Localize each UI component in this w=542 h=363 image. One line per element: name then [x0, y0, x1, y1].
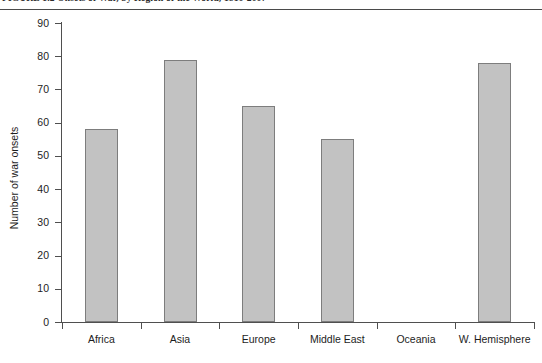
y-axis-title: Number of war onsets — [8, 78, 20, 278]
x-axis-tick — [62, 323, 63, 329]
x-axis-tick — [534, 323, 535, 329]
y-axis-tick-label: 80 — [3, 51, 49, 62]
x-axis-tick — [219, 323, 220, 329]
x-axis-tick — [298, 323, 299, 329]
y-axis-tick-label: 0 — [3, 317, 49, 328]
y-axis-tick — [55, 256, 61, 257]
figure-root: FIGURE 1.2 Onsets of War, by Region of t… — [0, 0, 542, 363]
bar — [85, 129, 118, 322]
y-axis-tick-label: 70 — [3, 84, 49, 95]
y-axis-tick — [55, 289, 61, 290]
plot-area — [62, 23, 534, 322]
y-axis-tick-label: 60 — [3, 117, 49, 128]
y-axis-tick — [55, 189, 61, 190]
caption-divider — [0, 9, 542, 10]
y-axis-tick — [55, 156, 61, 157]
y-axis-tick-label: 30 — [3, 217, 49, 228]
y-axis-tick-label: 90 — [3, 18, 49, 29]
x-axis-category-label: W. Hemisphere — [435, 334, 542, 345]
bar — [478, 63, 511, 322]
y-axis-tick — [55, 23, 61, 24]
y-axis-tick-label: 20 — [3, 250, 49, 261]
bar — [164, 60, 197, 322]
y-axis-tick-label: 10 — [3, 283, 49, 294]
y-axis-tick — [55, 222, 61, 223]
bar — [321, 139, 354, 322]
y-axis-tick-label: 40 — [3, 184, 49, 195]
y-axis-tick-label: 50 — [3, 150, 49, 161]
x-axis-tick — [141, 323, 142, 329]
figure-caption: FIGURE 1.2 Onsets of War, by Region of t… — [2, 0, 266, 3]
y-axis-tick — [55, 123, 61, 124]
y-axis-tick — [55, 56, 61, 57]
y-axis-tick — [55, 322, 61, 323]
y-axis-tick — [55, 89, 61, 90]
bar — [242, 106, 275, 322]
figure-caption-clip: FIGURE 1.2 Onsets of War, by Region of t… — [0, 0, 542, 9]
x-axis-tick — [455, 323, 456, 329]
x-axis-tick — [377, 323, 378, 329]
